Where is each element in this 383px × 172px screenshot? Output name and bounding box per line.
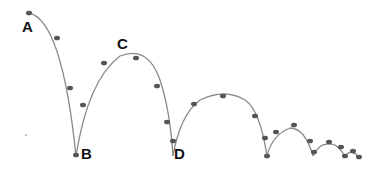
trajectory-path: [29, 13, 358, 157]
ball-positions: [26, 11, 362, 160]
label-a: A: [22, 18, 33, 35]
stray-dot: [25, 134, 27, 136]
label-c: C: [117, 35, 128, 52]
label-b: B: [81, 145, 92, 162]
bounce-diagram: A B C D: [0, 0, 383, 172]
label-d: D: [174, 145, 185, 162]
